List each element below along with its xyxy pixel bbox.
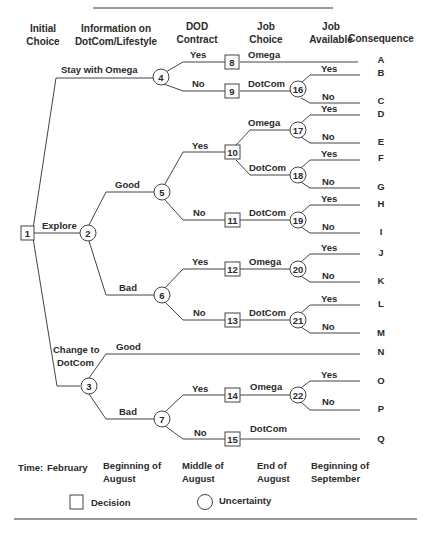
uncertainty-node-16: 16 (290, 81, 306, 97)
branch-19-yes (301, 205, 360, 213)
consequence-d: D (378, 108, 385, 119)
header-job-available-2: Available (309, 34, 353, 45)
label-4-yes: Yes (190, 49, 206, 60)
node-label: 3 (86, 381, 91, 392)
decision-node-13: 13 (225, 313, 240, 327)
decision-tree-diagram: Initial Choice Information on DotCom/Lif… (0, 0, 430, 539)
header-job-choice-2: Choice (249, 34, 283, 45)
consequence-g: G (377, 181, 384, 192)
label-20-no: No (322, 270, 335, 281)
consequence-b: B (378, 67, 385, 78)
branch-21-yes (301, 305, 360, 313)
header-consequence: Consequence (348, 33, 414, 44)
label-stay-with-omega: Stay with Omega (61, 64, 138, 75)
node-label: 12 (227, 264, 238, 275)
consequence-h: H (378, 198, 385, 209)
label-7-yes: Yes (192, 383, 208, 394)
consequence-f: F (378, 152, 384, 163)
consequence-l: L (378, 298, 384, 309)
label-22-yes: Yes (321, 369, 337, 380)
node-label: 20 (293, 264, 304, 275)
label-16-no: No (322, 91, 335, 102)
uncertainty-node-22: 22 (290, 387, 306, 403)
timeline-middle-of-august-2: August (182, 473, 216, 484)
node-label: 9 (229, 86, 234, 97)
label-3-bad: Bad (119, 406, 137, 417)
label-20-yes: Yes (321, 242, 337, 253)
uncertainty-node-17: 17 (290, 122, 306, 138)
header-initial-choice-1: Initial (30, 23, 56, 34)
node-label: 4 (158, 72, 164, 83)
branch-18-yes (301, 160, 360, 168)
label-19-yes: Yes (321, 193, 337, 204)
uncertainty-node-3: 3 (81, 378, 97, 394)
node-label: 8 (229, 57, 234, 68)
uncertainty-legend-circle-icon (198, 495, 213, 510)
consequence-c: C (378, 95, 385, 106)
label-17-no: No (322, 131, 335, 142)
label-9-dotcom: DotCom (248, 78, 285, 89)
label-22-no: No (322, 396, 335, 407)
node-label: 19 (293, 215, 304, 226)
consequence-q: Q (377, 433, 384, 444)
decision-node-10: 10 (225, 145, 240, 159)
label-11-dotcom: DotCom (249, 207, 286, 218)
timeline-beginning-of-august-1: Beginning of (103, 460, 162, 471)
branch-20-yes (301, 254, 360, 262)
branch-6-yes (165, 269, 225, 288)
timeline-beginning-of-september-1: Beginning of (311, 460, 370, 471)
header-information-2: DotCom/Lifestyle (75, 36, 158, 47)
timeline-end-of-august-1: End of (257, 460, 287, 471)
consequence-j: J (378, 247, 383, 258)
header-job-available-1: Job (322, 21, 340, 32)
branch-16-yes (301, 75, 360, 83)
decision-legend-square-icon (70, 495, 83, 509)
legend: Decision Uncertainty (70, 495, 272, 510)
label-2-good: Good (115, 179, 140, 190)
decision-node-8: 8 (225, 55, 239, 69)
label-7-no: No (194, 427, 207, 438)
branch-7-yes (165, 395, 225, 412)
uncertainty-node-6: 6 (154, 287, 170, 303)
node-label: 17 (293, 125, 304, 136)
label-21-yes: Yes (321, 293, 337, 304)
legend-uncertainty: Uncertainty (219, 495, 272, 506)
node-label: 10 (227, 147, 238, 158)
node-label: 6 (159, 290, 164, 301)
label-14-omega: Omega (250, 381, 283, 392)
uncertainty-node-18: 18 (290, 167, 306, 183)
header-job-choice-1: Job (257, 21, 275, 32)
node-label: 16 (293, 84, 304, 95)
node-label: 7 (159, 414, 164, 425)
node-label: 14 (227, 390, 238, 401)
header-dod-contract-2: Contract (176, 34, 218, 45)
node-label: 11 (227, 215, 238, 226)
uncertainty-node-19: 19 (290, 212, 306, 228)
branch-22-yes (301, 381, 360, 388)
uncertainty-node-7: 7 (154, 411, 170, 427)
decision-node-12: 12 (225, 262, 240, 276)
node-label: 13 (227, 315, 238, 326)
branch-4-yes (164, 62, 225, 73)
uncertainty-node-5: 5 (154, 184, 170, 200)
consequence-labels: A B C D E F G H I J K L M N O P Q (377, 54, 385, 444)
header-dod-contract-1: DOD (186, 21, 208, 32)
label-5-no: No (193, 207, 206, 218)
label-6-no: No (193, 307, 206, 318)
node-label: 22 (293, 390, 304, 401)
consequence-a: A (378, 54, 385, 65)
label-16-yes: Yes (321, 63, 337, 74)
label-8-omega: Omega (248, 49, 281, 60)
uncertainty-node-20: 20 (290, 261, 306, 277)
branch-stay-with-omega (33, 78, 156, 229)
label-17-yes: Yes (321, 103, 337, 114)
timeline-middle-of-august-1: Middle of (182, 460, 225, 471)
decision-node-1: 1 (21, 226, 34, 240)
label-10-dotcom: DotCom (249, 162, 286, 173)
timeline-february: February (47, 462, 88, 473)
timeline-label: Time: (18, 462, 43, 473)
uncertainty-node-4: 4 (153, 69, 169, 85)
consequence-o: O (377, 375, 384, 386)
node-label: 1 (25, 228, 31, 239)
label-3-good: Good (116, 341, 141, 352)
